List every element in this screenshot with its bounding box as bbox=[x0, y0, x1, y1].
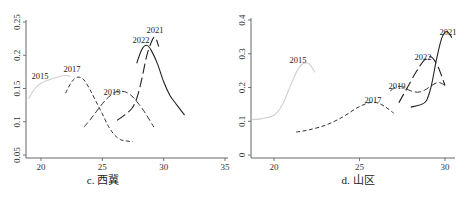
series-label-2015: 2015 bbox=[32, 71, 49, 81]
x-tick-label: 30 bbox=[441, 162, 451, 172]
series-lines bbox=[252, 31, 452, 132]
y-tick-label: 0.25 bbox=[12, 14, 22, 30]
series-line-2017 bbox=[296, 102, 394, 132]
chart-canvas: 0.050.10.150.20.25 20253035 201520172019… bbox=[0, 0, 469, 197]
series-label-2015: 2015 bbox=[290, 55, 307, 65]
series-line-2015 bbox=[252, 63, 315, 120]
y-tick-label: 0.3 bbox=[237, 48, 247, 60]
series-annotations: 20152017201920212022 bbox=[290, 27, 457, 105]
y-tick-label: 0.05 bbox=[12, 147, 22, 163]
x-tick-label: 35 bbox=[221, 162, 231, 172]
series-line-2022 bbox=[399, 57, 445, 103]
chart-panel-shanqu: 00.10.20.30.4 202530 2015201720192021202… bbox=[237, 14, 457, 186]
series-line-2022 bbox=[137, 45, 185, 115]
y-tick-label: 0.2 bbox=[12, 50, 22, 61]
x-tick-label: 20 bbox=[270, 162, 280, 172]
series-line-2021 bbox=[411, 31, 452, 107]
series-line-2021 bbox=[117, 37, 159, 120]
chart-panel-xiji: 0.050.10.150.20.25 20253035 201520172019… bbox=[12, 14, 230, 186]
series-label-2022: 2022 bbox=[133, 35, 150, 45]
x-axis-ticks: 202530 bbox=[270, 158, 451, 172]
series-label-2021: 2021 bbox=[147, 25, 164, 35]
series-label-2022: 2022 bbox=[415, 52, 432, 62]
x-tick-label: 25 bbox=[98, 162, 108, 172]
y-tick-label: 0.2 bbox=[237, 82, 247, 93]
series-line-2017 bbox=[66, 77, 134, 142]
y-axis-ticks: 00.10.20.30.4 bbox=[237, 14, 251, 157]
y-tick-label: 0 bbox=[237, 152, 247, 157]
panel-caption: c. 西冀 bbox=[87, 173, 119, 186]
y-tick-label: 0.1 bbox=[12, 116, 22, 127]
y-tick-label: 0.4 bbox=[237, 14, 247, 26]
series-label-2017: 2017 bbox=[64, 64, 81, 74]
x-tick-label: 25 bbox=[355, 162, 365, 172]
series-label-2021: 2021 bbox=[440, 27, 457, 37]
x-tick-label: 20 bbox=[37, 162, 47, 172]
x-axis-ticks: 20253035 bbox=[37, 158, 231, 172]
x-tick-label: 30 bbox=[159, 162, 169, 172]
y-axis-ticks: 0.050.10.150.20.25 bbox=[12, 14, 26, 163]
y-tick-label: 0.1 bbox=[237, 116, 247, 127]
y-tick-label: 0.15 bbox=[12, 80, 22, 96]
series-annotations: 20152017201920212022 bbox=[32, 25, 164, 97]
panel-caption: d. 山区 bbox=[342, 174, 375, 186]
series-label-2017: 2017 bbox=[365, 95, 382, 105]
series-label-2019: 2019 bbox=[104, 87, 121, 97]
series-label-2019: 2019 bbox=[389, 81, 406, 91]
